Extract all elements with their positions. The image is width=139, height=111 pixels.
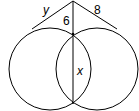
label-6: 6 — [63, 14, 70, 28]
label-x: x — [76, 64, 84, 78]
intersection-point-top — [72, 33, 75, 36]
label-8: 8 — [94, 3, 101, 17]
label-y: y — [42, 3, 50, 17]
diagram-canvas: y 8 6 x — [0, 0, 139, 111]
intersection-point-bottom — [72, 102, 74, 104]
right-circle — [56, 28, 138, 110]
